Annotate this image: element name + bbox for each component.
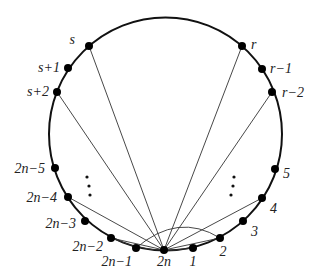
- node-3: [239, 217, 247, 225]
- node-label-s+2: s+2: [27, 84, 49, 99]
- node-r: [238, 42, 246, 50]
- node-label-s: s: [70, 32, 76, 47]
- left-dots-dot: [87, 184, 90, 187]
- node-label-4: 4: [270, 201, 277, 216]
- node-s: [85, 42, 93, 50]
- edge-2n-4: [164, 198, 262, 250]
- left-dots-dot: [88, 193, 91, 196]
- node-label-r-1: r−1: [270, 61, 292, 76]
- node-2n-4: [64, 193, 72, 201]
- node-label-2: 2: [220, 244, 227, 259]
- right-dots-dot: [229, 193, 232, 196]
- node-label-s+1: s+1: [38, 60, 60, 75]
- node-5: [271, 165, 279, 173]
- node-label-3: 3: [250, 224, 258, 239]
- node-label-r-2: r−2: [282, 85, 304, 100]
- node-r-1: [258, 65, 266, 73]
- right-dots-dot: [232, 175, 235, 178]
- right-dots-dot: [231, 184, 234, 187]
- node-label-2n-3: 2n−3: [46, 216, 76, 231]
- node-2n-5: [51, 164, 59, 172]
- edge-2n-r: [164, 46, 242, 250]
- node-label-2n-4: 2n−4: [27, 190, 57, 205]
- node-label-1: 1: [190, 254, 197, 269]
- edge-2n-s: [89, 46, 164, 250]
- node-2: [216, 234, 224, 242]
- left-dots-dot: [85, 175, 88, 178]
- node-2n: [160, 246, 168, 254]
- node-label-2n-1: 2n−1: [102, 254, 132, 269]
- node-label-2n-2: 2n−2: [73, 239, 103, 254]
- node-label-2n: 2n: [157, 254, 171, 269]
- node-4: [258, 194, 266, 202]
- node-s+2: [53, 88, 61, 96]
- circle-graph-diagram: ss+1s+2rr−1r−22n−52n−42n−32n−22n−12n1234…: [0, 0, 314, 278]
- node-2n-2: [107, 234, 115, 242]
- node-label-5: 5: [283, 166, 290, 181]
- node-r-2: [268, 88, 276, 96]
- node-2n-3: [81, 217, 89, 225]
- node-label-r: r: [251, 37, 257, 52]
- nodes-group: [51, 42, 279, 254]
- main-circle: [49, 18, 282, 251]
- node-2n-1: [132, 244, 140, 252]
- node-s+1: [64, 64, 72, 72]
- node-label-2n-5: 2n−5: [15, 161, 45, 176]
- node-1: [189, 244, 197, 252]
